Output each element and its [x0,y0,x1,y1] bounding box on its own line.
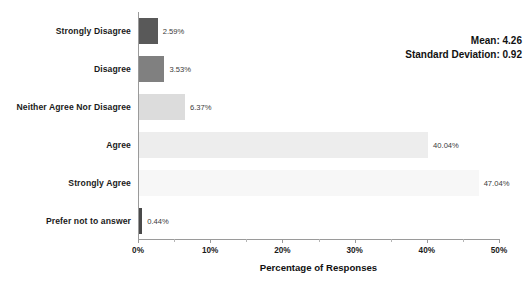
survey-bar-chart: Strongly Disagree2.59%Disagree3.53%Neith… [0,0,532,284]
x-tick-minor [463,239,464,242]
bar-value-label: 0.44% [147,217,169,226]
x-axis-tick-labels: 0%10%20%30%40%50% [0,246,532,260]
x-tick-major [499,239,500,243]
bar-group: 47.04% [139,170,509,196]
x-tick-label: 20% [274,246,290,255]
bar[interactable] [139,94,185,120]
x-tick-label: 10% [202,246,218,255]
mean-label: Mean: 4.26 [405,34,522,48]
bar-group: 40.04% [139,132,459,158]
bar[interactable] [139,208,142,234]
x-tick-major [210,239,211,243]
bar-group: 6.37% [139,94,212,120]
bar[interactable] [139,132,428,158]
bar-group: 0.44% [139,208,169,234]
x-tick-minor [391,239,392,242]
bar-row: Strongly Agree47.04% [0,164,532,202]
x-tick-label: 0% [132,246,144,255]
bar-group: 3.53% [139,56,191,82]
x-tick-label: 30% [346,246,362,255]
bar[interactable] [139,18,158,44]
category-label: Strongly Disagree [0,26,131,36]
x-tick-major [282,239,283,243]
x-tick-major [427,239,428,243]
bar-row: Neither Agree Nor Disagree6.37% [0,88,532,126]
category-label: Strongly Agree [0,178,131,188]
x-tick-minor [246,239,247,242]
bar[interactable] [139,56,164,82]
bar-row: Prefer not to answer0.44% [0,202,532,240]
x-tick-minor [319,239,320,242]
category-label: Prefer not to answer [0,216,131,226]
bar-value-label: 3.53% [169,65,191,74]
bar-value-label: 40.04% [433,141,459,150]
category-label: Agree [0,140,131,150]
x-tick-minor [174,239,175,242]
bar[interactable] [139,170,479,196]
category-label: Neither Agree Nor Disagree [0,102,131,112]
x-tick-label: 50% [491,246,507,255]
x-tick-major [138,239,139,243]
category-label: Disagree [0,64,131,74]
bar-group: 2.59% [139,18,184,44]
x-axis-title: Percentage of Responses [138,262,499,273]
standard-deviation-label: Standard Deviation: 0.92 [405,48,522,62]
bar-value-label: 6.37% [190,103,212,112]
bar-value-label: 2.59% [163,27,185,36]
bar-value-label: 47.04% [484,179,510,188]
statistics-annotation: Mean: 4.26 Standard Deviation: 0.92 [405,34,522,61]
x-tick-label: 40% [419,246,435,255]
x-tick-major [355,239,356,243]
bar-row: Agree40.04% [0,126,532,164]
